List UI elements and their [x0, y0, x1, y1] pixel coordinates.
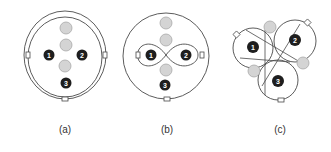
node-3: 3 [160, 80, 171, 91]
gray-node [60, 39, 72, 51]
node-2: 2 [77, 50, 88, 61]
gray-node [60, 22, 72, 34]
caption-a: (a) [45, 124, 85, 135]
node-2: 2 [181, 50, 192, 61]
node-1: 1 [247, 41, 259, 53]
connector-icon [233, 31, 240, 38]
gray-node [160, 17, 172, 29]
gray-node [264, 21, 276, 33]
connector-icon [62, 97, 68, 101]
connector-icon [26, 52, 30, 58]
panel-c: 1 2 3 [233, 19, 316, 102]
connector-icon [278, 98, 284, 102]
node-label: 1 [251, 44, 255, 51]
connector-icon [200, 52, 204, 58]
node-label: 2 [293, 37, 297, 44]
node-label: 1 [47, 52, 51, 59]
node-1: 1 [146, 50, 157, 61]
caption-c: (c) [260, 124, 300, 135]
gray-node [160, 64, 172, 76]
node-label: 2 [184, 52, 188, 59]
connector-icon [136, 52, 140, 58]
node-label: 3 [276, 78, 280, 85]
gray-node [59, 60, 71, 72]
connector-icon [304, 19, 311, 26]
node-1: 1 [44, 50, 55, 61]
panel-b: 1 2 3 [123, 13, 209, 101]
panel-a: 1 2 3 [24, 11, 107, 101]
node-2: 2 [289, 34, 301, 46]
node-3: 3 [61, 78, 72, 89]
node-3: 3 [272, 75, 284, 87]
node-label: 3 [163, 82, 167, 89]
gray-node [248, 65, 260, 77]
connector-icon [103, 52, 107, 58]
connector-icon [164, 97, 170, 101]
node-label: 3 [64, 80, 68, 87]
gray-node [297, 57, 309, 69]
node-label: 2 [80, 52, 84, 59]
node-label: 1 [149, 52, 153, 59]
caption-b: (b) [147, 124, 187, 135]
gray-node [160, 34, 172, 46]
